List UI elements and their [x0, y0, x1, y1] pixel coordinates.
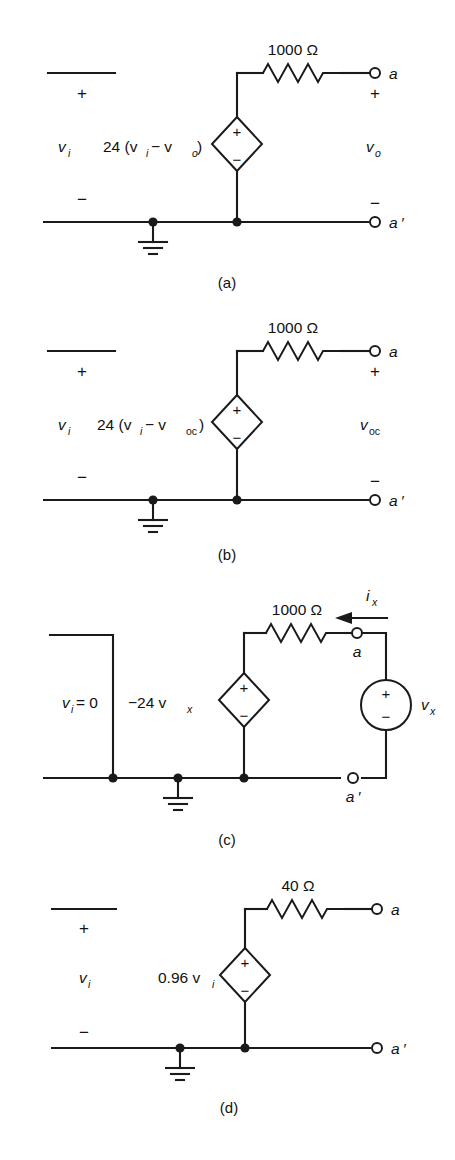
panel-d: + v i − 0.96 v i + − 40 Ω a a ′ (d) [52, 877, 407, 1116]
resistor-c [266, 624, 344, 642]
source-minus-sign-d: − [241, 982, 250, 999]
dependent-source-sub1-c: x [186, 703, 193, 715]
input-voltage-subscript-d: i [88, 978, 91, 990]
current-arrow-head-c [335, 612, 352, 624]
test-source-subscript-c: x [429, 705, 436, 717]
terminal-a-top-d [372, 904, 382, 914]
dependent-source-label-c: −24 v [128, 694, 167, 711]
panel-caption-a: (a) [218, 274, 236, 291]
panel-caption-c: (c) [218, 831, 236, 848]
input-voltage-label-c: v [62, 694, 71, 711]
dependent-source-sub1-b: i [140, 425, 143, 437]
input-voltage-equals-zero-c: = 0 [76, 694, 98, 711]
source-node-dot-c [239, 773, 248, 782]
source-minus-sign-b: − [233, 429, 242, 446]
test-source-top-wire-c [362, 633, 386, 680]
source-plus-sign-c: + [240, 679, 249, 696]
output-minus-sign-b: − [370, 472, 380, 491]
source-node-dot-d [240, 1043, 249, 1052]
terminal-a-top-c [352, 628, 362, 638]
input-voltage-subscript-a: i [68, 147, 71, 159]
panel-b: + v i − 24 (v i − v oc ) + − 1000 Ω a + … [44, 319, 405, 563]
input-plus-sign-d: + [79, 919, 89, 938]
terminal-a-top-b [370, 346, 380, 356]
dependent-source-sub1-a: i [146, 147, 149, 159]
terminal-label-a-top-d: a [391, 901, 400, 918]
test-source-plus-sign-c: + [382, 685, 391, 702]
ground-node-dot-c [173, 773, 182, 782]
output-voltage-subscript-b: oc [369, 425, 380, 437]
input-minus-sign-d: − [79, 1023, 89, 1042]
resistor-d [267, 900, 345, 918]
input-minus-sign-b: − [77, 468, 87, 487]
terminal-label-a-bottom-b: a ′ [389, 492, 405, 509]
input-plus-sign-b: + [77, 362, 87, 381]
output-plus-sign-b: + [370, 362, 380, 381]
input-minus-sign-a: − [77, 190, 87, 209]
input-voltage-subscript-c: i [71, 703, 74, 715]
output-voltage-label-b: v [360, 416, 369, 433]
dependent-source-sub2-b: oc [186, 425, 197, 437]
output-minus-sign-a: − [370, 194, 380, 213]
test-source-minus-sign-c: − [382, 708, 391, 725]
resistor-a [263, 64, 341, 82]
ground-node-dot-a [148, 217, 157, 226]
dependent-source-label-d: 0.96 v [158, 969, 200, 986]
dependent-source-sub1-d: i [212, 978, 215, 990]
input-voltage-label-d: v [79, 969, 88, 986]
panel-caption-d: (d) [220, 1099, 238, 1116]
current-subscript-c: x [371, 596, 378, 608]
terminal-label-a-bottom-a: a ′ [389, 214, 405, 231]
terminal-a-bottom-b [370, 495, 380, 505]
source-minus-sign-a: − [233, 151, 242, 168]
dependent-source-mid-b: − v [145, 416, 166, 433]
resistor-b [263, 342, 341, 360]
source-plus-sign-a: + [233, 123, 242, 140]
resistor-value-label-d: 40 Ω [281, 877, 314, 894]
test-source-bottom-wire-c [362, 730, 386, 778]
terminal-label-a-bottom-d: a ′ [391, 1040, 407, 1057]
test-source-label-c: v [421, 696, 430, 713]
terminal-a-bottom-a [370, 217, 380, 227]
resistor-value-label-c: 1000 Ω [272, 601, 322, 618]
source-node-dot-b [232, 495, 241, 504]
ground-node-dot-b [148, 495, 157, 504]
input-node-dot-c [108, 773, 117, 782]
output-plus-sign-a: + [370, 84, 380, 103]
resistor-value-label-a: 1000 Ω [268, 41, 318, 58]
input-voltage-label-a: v [58, 138, 67, 155]
input-voltage-subscript-b: i [68, 425, 71, 437]
dependent-source-label-b: 24 (v [97, 416, 132, 433]
resistor-value-label-b: 1000 Ω [268, 319, 318, 336]
dependent-source-end-b: ) [199, 416, 204, 433]
terminal-label-a-bottom-c: a ′ [346, 788, 362, 805]
dependent-source-mid-a: − v [151, 138, 172, 155]
source-plus-sign-b: + [233, 401, 242, 418]
circuit-figure-set: + v i − 24 (v i − v o ) + − 1000 Ω a + a… [0, 0, 455, 1160]
source-minus-sign-c: − [240, 707, 249, 724]
terminal-label-a-top-c: a [353, 643, 362, 660]
terminal-a-bottom-c [348, 773, 358, 783]
output-voltage-subscript-a: o [375, 147, 381, 159]
input-voltage-label-b: v [58, 416, 67, 433]
source-node-dot-a [232, 217, 241, 226]
terminal-label-a-top-a: a [389, 65, 398, 82]
terminal-label-a-top-b: a [389, 343, 398, 360]
panel-c: v i = 0 −24 v x + − 1000 Ω i x a + − v [44, 587, 436, 848]
terminal-a-bottom-d [372, 1043, 382, 1053]
ground-node-dot-d [175, 1043, 184, 1052]
input-plus-sign-a: + [77, 84, 87, 103]
panel-a: + v i − 24 (v i − v o ) + − 1000 Ω a + a… [44, 41, 405, 291]
dependent-source-label-a: 24 (v [103, 138, 138, 155]
panel-caption-b: (b) [218, 546, 236, 563]
output-voltage-label-a: v [366, 138, 375, 155]
terminal-a-top-a [370, 68, 380, 78]
current-label-c: i [366, 587, 370, 604]
dependent-source-end-a: ) [197, 138, 202, 155]
source-plus-sign-d: + [241, 954, 250, 971]
